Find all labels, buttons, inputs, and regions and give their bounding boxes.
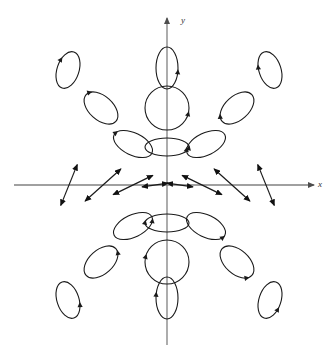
x-axis-label: x: [318, 180, 322, 189]
phase-portrait-canvas: [0, 0, 334, 360]
orbit-ellipse: [76, 84, 124, 130]
orbit-direction-arrowhead: [111, 129, 118, 136]
orbit-ellipse: [50, 48, 85, 92]
orbit-ellipse: [213, 86, 260, 132]
orbit-direction-arrowhead: [185, 111, 190, 117]
orbit-ellipse: [254, 279, 288, 322]
orbit-ellipse: [142, 214, 189, 232]
orbit-ellipse: [107, 124, 157, 163]
orbit-ellipse: [182, 207, 230, 245]
orbit-direction-arrowhead: [254, 64, 261, 71]
orbit-ellipse: [251, 49, 286, 93]
orbit-direction-arrowhead: [216, 114, 224, 122]
orbit-ellipse: [52, 278, 85, 321]
orbit-ellipse: [214, 240, 260, 285]
orbit-ellipse: [78, 240, 124, 285]
y-axis-label: y: [181, 16, 185, 25]
orbit-direction-arrowhead: [153, 292, 158, 297]
phase-portrait-figure: y x: [0, 0, 334, 360]
orbit-direction-arrowhead: [218, 234, 225, 241]
axes-group: [14, 18, 314, 345]
orbit-direction-arrowhead: [143, 254, 148, 260]
orbit-ellipse: [109, 207, 157, 245]
orbit-direction-arrowhead: [148, 218, 155, 225]
orbit-direction-arrowhead: [175, 69, 180, 74]
orbit-ellipse: [156, 47, 180, 89]
orbit-ellipse: [153, 277, 178, 319]
